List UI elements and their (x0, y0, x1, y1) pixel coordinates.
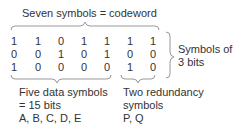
bit: 1 (102, 35, 112, 47)
bit: 0 (56, 61, 66, 73)
bit: 0 (79, 61, 89, 73)
bit: 1 (9, 61, 19, 73)
redundancy-label: Two redundancy (123, 86, 204, 98)
redundancy-symbols-label: symbols (123, 99, 163, 111)
data-symbols-label: Five data symbols (19, 86, 108, 98)
bit: 1 (148, 35, 158, 47)
bit: 0 (125, 48, 135, 60)
data-symbol-names: A, B, C, D, E (19, 112, 81, 124)
bit: 0 (33, 48, 43, 60)
bit: 1 (102, 48, 112, 60)
redundancy-symbol-names: P, Q (123, 112, 144, 124)
symbols-of-label: Symbols of (178, 43, 232, 55)
bit: 1 (9, 35, 19, 47)
bit: 1 (33, 35, 43, 47)
bit: 0 (9, 48, 19, 60)
bit: 0 (102, 61, 112, 73)
bit: 1 (125, 35, 135, 47)
codeword-title: Seven symbols = codeword (22, 7, 157, 19)
data-bits-label: = 15 bits (19, 99, 61, 111)
bit: 0 (79, 48, 89, 60)
bit: 1 (56, 48, 66, 60)
bit: 0 (148, 48, 158, 60)
bit: 0 (33, 61, 43, 73)
bit: 0 (56, 35, 66, 47)
bit: 1 (79, 35, 89, 47)
three-bits-label: 3 bits (178, 56, 204, 68)
bit: 0 (148, 61, 158, 73)
bit: 1 (125, 61, 135, 73)
